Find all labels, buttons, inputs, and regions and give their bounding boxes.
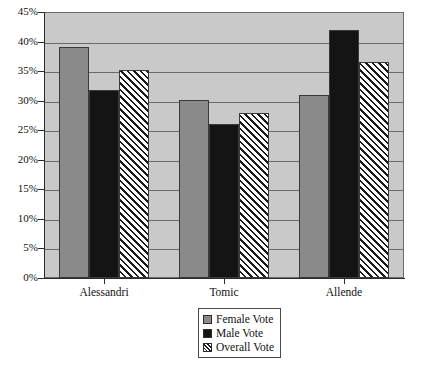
- y-axis-tick-mark: [38, 71, 44, 72]
- y-axis-tick-label: 45%: [0, 6, 38, 17]
- y-axis-tick-label: 35%: [0, 65, 38, 76]
- bar-allende-overall-vote: [359, 62, 389, 278]
- x-axis-tick-mark: [344, 279, 345, 284]
- y-axis-tick-text: 20%: [2, 154, 38, 165]
- bar-allende-female-vote: [299, 95, 329, 278]
- legend-item-female-vote: Female Vote: [203, 312, 274, 326]
- x-axis-label-alessandri: Alessandri: [44, 286, 164, 299]
- bar-tomic-overall-vote: [239, 113, 269, 278]
- y-axis-tick-label: 40%: [0, 36, 38, 47]
- y-axis-tick-label: 0%: [0, 272, 38, 283]
- x-axis-tick-mark: [224, 279, 225, 284]
- y-axis-tick-mark: [38, 12, 44, 13]
- y-axis-line: [44, 12, 45, 279]
- y-axis-tick-mark: [38, 42, 44, 43]
- legend-swatch-male-vote: [203, 329, 212, 338]
- y-axis-tick-label: 30%: [0, 95, 38, 106]
- bar-tomic-female-vote: [179, 100, 209, 278]
- y-axis-tick-label: 20%: [0, 154, 38, 165]
- y-axis-tick-label: 10%: [0, 213, 38, 224]
- y-axis-tick-mark: [38, 219, 44, 220]
- y-axis-tick-mark: [38, 101, 44, 102]
- bar-alessandri-overall-vote: [119, 70, 149, 278]
- y-axis-tick-mark: [38, 130, 44, 131]
- y-axis-tick-text: 25%: [2, 124, 38, 135]
- y-axis-tick-text: 45%: [2, 6, 38, 17]
- bar-alessandri-female-vote: [59, 47, 89, 278]
- legend-label-female-vote: Female Vote: [216, 313, 273, 326]
- x-axis-label-tomic: Tomic: [164, 286, 284, 299]
- chart-legend: Female Vote Male Vote Overall Vote: [198, 308, 281, 358]
- legend-item-overall-vote: Overall Vote: [203, 340, 274, 354]
- legend-label-male-vote: Male Vote: [216, 327, 263, 340]
- bar-chart-figure: 45%40%35%30%25%20%15%10%5%0% AlessandriT…: [0, 0, 432, 366]
- legend-swatch-female-vote: [203, 315, 212, 324]
- x-axis-tick-mark: [104, 279, 105, 284]
- bar-tomic-male-vote: [209, 124, 239, 278]
- y-axis-tick-text: 30%: [2, 95, 38, 106]
- legend-item-male-vote: Male Vote: [203, 326, 274, 340]
- y-axis-tick-label: 25%: [0, 124, 38, 135]
- y-axis-tick-label: 5%: [0, 242, 38, 253]
- bar-allende-male-vote: [329, 30, 359, 278]
- y-axis-tick-label: 15%: [0, 183, 38, 194]
- y-axis-tick-text: 40%: [2, 36, 38, 47]
- legend-swatch-overall-vote: [203, 343, 212, 352]
- legend-label-overall-vote: Overall Vote: [216, 341, 274, 354]
- y-axis-tick-mark: [38, 248, 44, 249]
- x-axis-label-allende: Allende: [284, 286, 404, 299]
- y-axis-tick-text: 10%: [2, 213, 38, 224]
- y-axis-tick-text: 15%: [2, 183, 38, 194]
- bar-alessandri-male-vote: [89, 90, 119, 278]
- y-axis-tick-mark: [38, 189, 44, 190]
- y-axis-tick-mark: [38, 160, 44, 161]
- y-axis-tick-text: 35%: [2, 65, 38, 76]
- y-axis-tick-text: 0%: [2, 272, 38, 283]
- y-axis-tick-text: 5%: [2, 242, 38, 253]
